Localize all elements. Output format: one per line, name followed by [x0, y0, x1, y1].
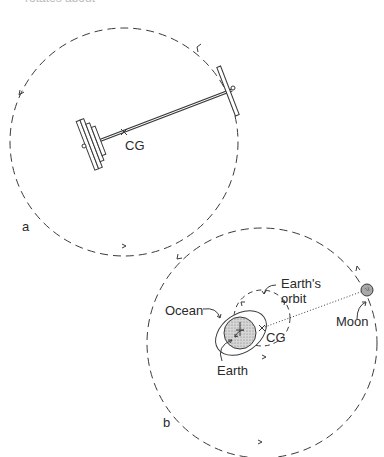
- panel-b-moon-orbit-circle: [147, 228, 377, 457]
- panel-a-label: a: [22, 220, 29, 233]
- moon-label: Moon: [336, 315, 369, 328]
- orbit-arrow-icon: [19, 44, 201, 248]
- cg-label-b: CG: [266, 331, 286, 344]
- earth-sphere: [224, 317, 256, 349]
- diagram-canvas: [0, 0, 384, 457]
- panel-b-label: b: [163, 416, 170, 429]
- earths-orbit-label-line2: orbit: [281, 292, 306, 305]
- moon-sphere: [361, 284, 373, 296]
- barbell: [76, 66, 239, 170]
- earths-orbit-label-line1: Earth's: [281, 277, 321, 290]
- earth-label: Earth: [217, 364, 248, 377]
- orbit-arrow-icon: [177, 254, 360, 444]
- ocean-label: Ocean: [165, 304, 203, 317]
- panel-a-orbit-circle: [10, 28, 238, 256]
- cg-label-a: CG: [125, 139, 145, 152]
